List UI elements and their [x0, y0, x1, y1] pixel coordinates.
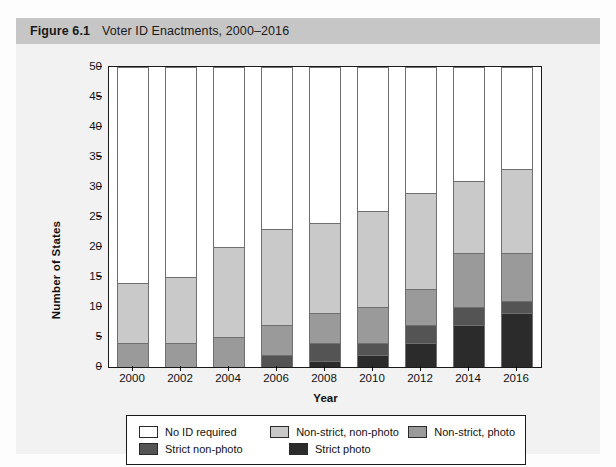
x-tick-mark: [180, 366, 181, 371]
y-tick-mark: [97, 336, 102, 337]
y-tick-mark: [97, 156, 102, 157]
legend-label: Non-strict, photo: [434, 426, 515, 438]
legend-swatch-icon: [139, 426, 158, 438]
y-tick-mark: [97, 306, 102, 307]
x-axis-label: Year: [108, 392, 543, 404]
y-axis-label-holder: Number of States: [44, 104, 64, 394]
y-tick-mark: [97, 186, 102, 187]
bar-segment: [453, 181, 485, 253]
legend-label: Strict non-photo: [165, 443, 243, 455]
bar-segment: [501, 313, 533, 367]
bar-stack: [261, 67, 293, 367]
bar-segment: [453, 325, 485, 367]
bar-segment: [501, 253, 533, 301]
figure-container: Figure 6.1 Voter ID Enactments, 2000–201…: [0, 0, 616, 467]
x-tick-mark: [468, 366, 469, 371]
legend-item-non-strict-non-photo: Non-strict, non-photo: [270, 426, 408, 438]
x-tick-label: 2016: [486, 372, 546, 384]
legend-swatch-icon: [408, 426, 427, 438]
legend-row: Strict non-photo Strict photo: [139, 440, 515, 457]
x-tick-mark: [372, 366, 373, 371]
plot-wrapper: Number of States 05101520253035404550 20…: [16, 44, 600, 454]
bar-segment: [405, 289, 437, 325]
y-tick-mark: [97, 66, 102, 67]
bar-segment: [261, 325, 293, 355]
bar-segment: [453, 253, 485, 307]
x-axis-ticks: 200020022004200620082010201220142016: [108, 366, 543, 373]
bar-segment: [117, 283, 149, 343]
bar-segment: [117, 67, 149, 283]
bar-segment: [405, 67, 437, 193]
x-tick-mark: [276, 366, 277, 371]
legend-item-strict-photo: Strict photo: [289, 443, 447, 455]
y-tick-mark: [97, 216, 102, 217]
legend-item-non-strict-photo: Non-strict, photo: [408, 426, 515, 438]
bar-stack: [453, 67, 485, 367]
bar-segment: [213, 67, 245, 247]
figure-title: Voter ID Enactments, 2000–2016: [102, 24, 289, 38]
plot-area: [108, 66, 542, 368]
bar-stack: [357, 67, 389, 367]
bar-segment: [165, 343, 197, 367]
bar-segment: [165, 277, 197, 343]
chart-canvas: Number of States 05101520253035404550 20…: [16, 44, 600, 454]
x-tick-mark: [228, 366, 229, 371]
y-axis-label: Number of States: [50, 190, 62, 350]
chart-legend: No ID required Non-strict, non-photo Non…: [126, 415, 526, 465]
bar-segment: [165, 67, 197, 277]
bar-segment: [309, 313, 341, 343]
bar-segment: [501, 67, 533, 169]
y-axis-ticks: 05101520253035404550: [66, 44, 102, 454]
bar-stack: [117, 67, 149, 367]
legend-swatch-icon: [139, 443, 158, 455]
y-tick-mark: [97, 96, 102, 97]
y-tick-mark: [97, 366, 102, 367]
legend-item-strict-non-photo: Strict non-photo: [139, 443, 289, 455]
bar-segment: [309, 343, 341, 361]
bar-stack: [309, 67, 341, 367]
bar-stack: [213, 67, 245, 367]
bar-segment: [309, 67, 341, 223]
bar-segment: [501, 301, 533, 313]
bar-segment: [357, 211, 389, 307]
bar-segment: [405, 325, 437, 343]
y-tick-mark: [97, 246, 102, 247]
legend-label: No ID required: [165, 426, 237, 438]
y-tick-mark: [97, 276, 102, 277]
bar-segment: [261, 229, 293, 325]
bar-segment: [501, 169, 533, 253]
bar-segment: [405, 343, 437, 367]
bar-segment: [453, 67, 485, 181]
bar-segment: [405, 193, 437, 289]
y-tick-mark: [97, 126, 102, 127]
x-tick-mark: [132, 366, 133, 371]
bar-segment: [117, 343, 149, 367]
bar-segment: [453, 307, 485, 325]
legend-label: Non-strict, non-photo: [296, 426, 399, 438]
bar-segment: [357, 307, 389, 343]
x-tick-mark: [420, 366, 421, 371]
legend-row: No ID required Non-strict, non-photo Non…: [139, 423, 515, 440]
legend-swatch-icon: [270, 426, 289, 438]
bar-segment: [309, 223, 341, 313]
legend-label: Strict photo: [315, 443, 371, 455]
bar-stack: [405, 67, 437, 367]
bar-stack: [165, 67, 197, 367]
bar-segment: [213, 247, 245, 337]
x-tick-mark: [324, 366, 325, 371]
legend-swatch-icon: [289, 443, 308, 455]
bar-stack: [501, 67, 533, 367]
bar-segment: [357, 343, 389, 355]
x-tick-mark: [516, 366, 517, 371]
figure-title-bar: Figure 6.1 Voter ID Enactments, 2000–201…: [16, 18, 600, 44]
bar-segment: [357, 67, 389, 211]
figure-number: Figure 6.1: [30, 24, 90, 38]
legend-item-no-id-required: No ID required: [139, 426, 270, 438]
bar-segment: [261, 67, 293, 229]
bar-segment: [213, 337, 245, 367]
